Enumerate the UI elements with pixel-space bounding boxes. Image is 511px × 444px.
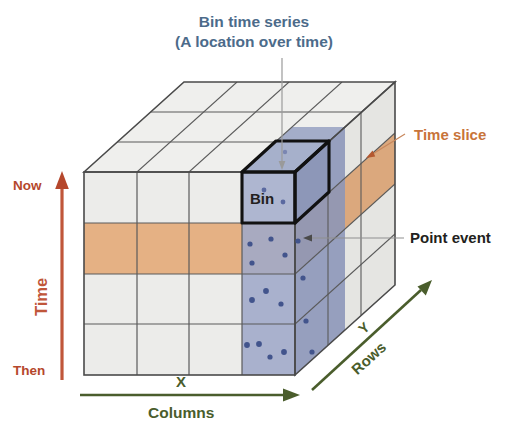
- time-slice-label: Time slice: [414, 126, 486, 144]
- time-axis-then-tick: Then: [13, 363, 45, 379]
- figure-canvas: Bin time series (A location over time) T…: [0, 0, 511, 444]
- space-time-cube-svg: [0, 0, 511, 444]
- x-axis-label: X: [176, 373, 186, 391]
- figure-title-line2: (A location over time): [129, 33, 379, 51]
- time-axis-arrow: [55, 171, 69, 380]
- time-axis-label: Time: [32, 278, 51, 316]
- x-axis-sublabel: Columns: [148, 404, 214, 422]
- time-axis-now-tick: Now: [13, 178, 42, 194]
- cube-body: [84, 82, 395, 375]
- x-axis-arrow: [80, 389, 300, 402]
- point-event-label: Point event: [410, 229, 491, 247]
- figure-title-line1: Bin time series: [139, 13, 369, 31]
- bin-label: Bin: [250, 190, 274, 208]
